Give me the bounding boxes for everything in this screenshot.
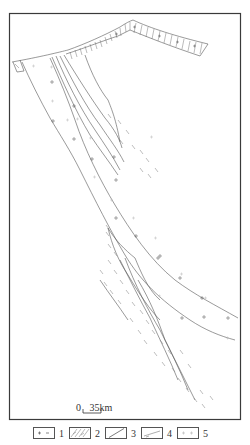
scale-zero: 0 bbox=[76, 402, 81, 413]
diagonal-line-icon bbox=[105, 427, 127, 439]
scale-label: 0 35km bbox=[76, 402, 112, 413]
northern-hatched-belt bbox=[12, 20, 208, 62]
legend-label: 3 bbox=[131, 428, 136, 439]
map-frame bbox=[10, 14, 241, 420]
dashed-diagonal-icon bbox=[141, 427, 163, 439]
legend-item-1: 1 bbox=[33, 427, 64, 439]
plus-minus-icon bbox=[33, 427, 55, 439]
legend-item-3: 3 bbox=[105, 427, 136, 439]
geological-map bbox=[0, 0, 250, 445]
legend-item-4: 4 bbox=[141, 427, 172, 439]
hatch-icon bbox=[69, 427, 91, 439]
legend-label: 4 bbox=[167, 428, 172, 439]
legend-item-2: 2 bbox=[69, 427, 100, 439]
light-plus-icon bbox=[177, 427, 199, 439]
shear-zone-lines bbox=[52, 55, 195, 400]
legend-label: 5 bbox=[203, 428, 208, 439]
scale-distance: 35km bbox=[90, 402, 113, 413]
legend-label: 1 bbox=[59, 428, 64, 439]
legend: 1 2 3 4 5 bbox=[33, 425, 243, 441]
legend-label: 2 bbox=[95, 428, 100, 439]
dashed-strokes bbox=[100, 114, 213, 408]
legend-item-5: 5 bbox=[177, 427, 208, 439]
light-plus-markers bbox=[32, 65, 229, 340]
